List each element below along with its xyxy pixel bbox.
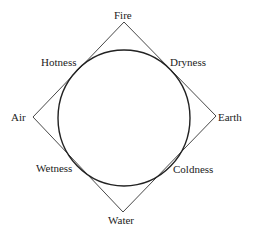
label-wetness: Wetness xyxy=(36,162,72,174)
diagram-graphic xyxy=(0,0,254,237)
label-hotness: Hotness xyxy=(41,56,76,68)
label-dryness: Dryness xyxy=(170,56,206,68)
label-water: Water xyxy=(108,214,134,226)
qualities-circle xyxy=(58,50,190,186)
four-elements-diagram: Fire Hotness Dryness Air Earth Wetness C… xyxy=(0,0,254,237)
label-earth: Earth xyxy=(218,111,242,123)
label-coldness: Coldness xyxy=(173,163,213,175)
label-air: Air xyxy=(11,111,26,123)
label-fire: Fire xyxy=(114,9,132,21)
